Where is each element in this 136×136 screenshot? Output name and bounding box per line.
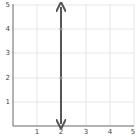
svg-text:1: 1: [35, 128, 39, 136]
svg-text:4: 4: [6, 25, 11, 33]
svg-text:5: 5: [131, 128, 135, 136]
y-tick-labels: 1 2 3 4 5: [6, 1, 11, 106]
x-tick-labels: 1 2 3 4 5: [35, 128, 135, 136]
svg-text:2: 2: [6, 74, 10, 82]
svg-text:5: 5: [6, 1, 10, 9]
svg-text:2: 2: [59, 128, 63, 136]
svg-text:3: 3: [6, 49, 10, 57]
chart: 1 2 3 4 5 1 2 3 4 5: [0, 0, 136, 136]
svg-text:1: 1: [6, 98, 10, 106]
svg-text:3: 3: [84, 128, 88, 136]
point-2-4: [60, 28, 63, 31]
svg-text:4: 4: [108, 128, 113, 136]
point-2-2: [60, 77, 63, 80]
grid: [13, 4, 134, 126]
axes: [13, 4, 134, 126]
